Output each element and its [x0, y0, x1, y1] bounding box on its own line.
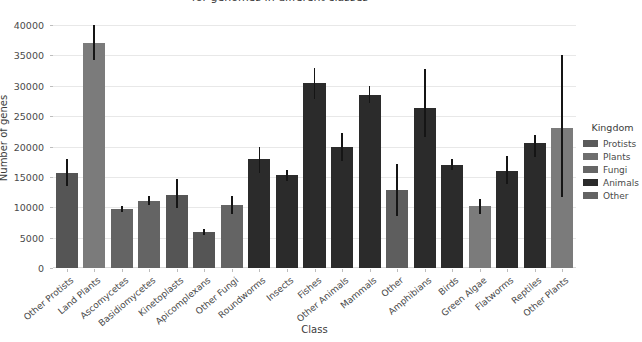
bar — [138, 201, 160, 268]
y-tick-mark — [50, 238, 53, 239]
x-tick-mark — [204, 269, 205, 272]
error-bar — [341, 133, 343, 161]
x-tick-mark — [259, 269, 260, 272]
error-bar — [314, 68, 316, 99]
bar — [56, 173, 78, 268]
y-tick-label: 40000 — [0, 20, 44, 31]
x-tick-mark — [562, 269, 563, 272]
error-bar — [259, 147, 261, 173]
error-bar — [66, 159, 68, 186]
y-tick-label: 0 — [0, 263, 44, 274]
y-tick-mark — [50, 207, 53, 208]
legend-item[interactable]: Animals — [583, 176, 642, 189]
x-tick-mark — [149, 269, 150, 272]
x-tick-mark — [397, 269, 398, 272]
bar — [276, 175, 298, 268]
legend-swatch — [583, 140, 598, 147]
gridline — [53, 55, 576, 56]
error-bar — [506, 156, 508, 183]
x-tick-mark — [287, 269, 288, 272]
x-tick-mark — [67, 269, 68, 272]
bar — [496, 171, 518, 268]
bar — [469, 206, 491, 268]
legend-item-label: Plants — [603, 152, 630, 162]
x-tick-mark — [177, 269, 178, 272]
bar — [193, 232, 215, 268]
x-tick-mark — [232, 269, 233, 272]
error-bar — [148, 196, 150, 206]
legend-item[interactable]: Other — [583, 189, 642, 202]
error-bar — [534, 135, 536, 157]
legend-swatch — [583, 166, 598, 173]
bar — [359, 95, 381, 268]
legend-item-label: Protists — [603, 139, 636, 149]
x-tick-mark — [370, 269, 371, 272]
x-tick-mark — [342, 269, 343, 272]
legend-rows: ProtistsPlantsFungiAnimalsOther — [583, 137, 642, 202]
legend-item[interactable]: Fungi — [583, 163, 642, 176]
error-bar — [231, 196, 233, 214]
bar — [524, 143, 546, 268]
legend: Kingdom ProtistsPlantsFungiAnimalsOther — [583, 122, 642, 202]
error-bar — [176, 179, 178, 208]
bar — [83, 43, 105, 268]
bar — [248, 159, 270, 268]
bar — [331, 147, 353, 268]
plot-area — [53, 16, 576, 268]
legend-item[interactable]: Plants — [583, 150, 642, 163]
y-tick-mark — [50, 177, 53, 178]
legend-swatch — [583, 153, 598, 160]
legend-item-label: Fungi — [603, 165, 627, 175]
x-tick-mark — [535, 269, 536, 272]
y-tick-mark — [50, 116, 53, 117]
legend-title: Kingdom — [583, 122, 642, 133]
bar — [221, 205, 243, 268]
x-tick-mark — [315, 269, 316, 272]
chart-title: for genomes in different classes — [0, 0, 560, 4]
x-tick-mark — [122, 269, 123, 272]
error-bar — [286, 170, 288, 181]
error-bar — [451, 159, 453, 169]
y-tick-label: 5000 — [0, 232, 44, 243]
error-bar — [396, 164, 398, 217]
y-tick-mark — [50, 86, 53, 87]
legend-item[interactable]: Protists — [583, 137, 642, 150]
legend-swatch — [583, 179, 598, 186]
bar — [111, 209, 133, 268]
y-tick-mark — [50, 147, 53, 148]
x-tick-mark — [507, 269, 508, 272]
error-bar — [561, 55, 563, 196]
legend-item-label: Animals — [603, 178, 639, 188]
x-tick-mark — [480, 269, 481, 272]
y-tick-mark — [50, 55, 53, 56]
error-bar — [479, 199, 481, 214]
legend-item-label: Other — [603, 191, 629, 201]
x-tick-mark — [94, 269, 95, 272]
y-tick-mark — [50, 268, 53, 269]
y-axis-label: Number of genes — [0, 95, 9, 181]
y-tick-mark — [50, 25, 53, 26]
y-tick-label: 20000 — [0, 141, 44, 152]
y-tick-label: 10000 — [0, 202, 44, 213]
x-axis-label: Class — [53, 324, 576, 335]
x-tick-mark — [452, 269, 453, 272]
y-tick-label: 25000 — [0, 111, 44, 122]
y-tick-label: 15000 — [0, 171, 44, 182]
x-tick-mark — [425, 269, 426, 272]
bar — [303, 83, 325, 268]
error-bar — [121, 206, 123, 211]
error-bar — [93, 25, 95, 60]
gridline — [53, 25, 576, 26]
error-bar — [203, 229, 205, 235]
error-bar — [369, 86, 371, 104]
chart-root: for genomes in different classes Number … — [0, 0, 642, 342]
y-tick-label: 35000 — [0, 50, 44, 61]
bar — [441, 165, 463, 268]
legend-swatch — [583, 192, 598, 199]
error-bar — [424, 69, 426, 136]
y-tick-label: 30000 — [0, 80, 44, 91]
